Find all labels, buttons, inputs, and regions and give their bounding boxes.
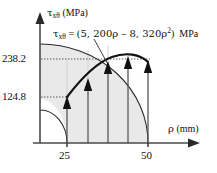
figure-canvas — [0, 0, 217, 173]
equation-unit: MPa — [179, 28, 198, 39]
y-tick-label-238-2: 238.2 — [2, 53, 26, 64]
x-axis-title: ρ (mm) — [168, 124, 199, 134]
equation-annotation: τxθ = (5, 200ρ – 8, 320ρ2) MPa — [53, 27, 198, 41]
y-tick-label-124-8: 124.8 — [2, 91, 26, 102]
equation-equals: = — [68, 28, 74, 39]
y-axis-title-unit: (MPa) — [62, 7, 88, 18]
equation-rhs-tail: ) — [171, 28, 174, 39]
x-axis-arrowhead — [188, 139, 200, 148]
y-axis-arrowhead — [36, 12, 45, 24]
shear-stress-distribution-figure: τxθ (MPa) ρ (mm) τxθ = (5, 200ρ – 8, 320… — [0, 0, 217, 173]
x-axis-title-unit: (mm) — [176, 123, 198, 134]
x-axis-title-symbol: ρ — [168, 123, 174, 134]
x-tick-label-25: 25 — [59, 150, 70, 161]
equation-rhs: (5, 200ρ – 8, 320ρ — [77, 28, 168, 39]
equation-lhs-subscript: xθ — [59, 32, 66, 41]
x-tick-label-50: 50 — [141, 150, 152, 161]
y-axis-title-subscript: xθ — [53, 11, 60, 20]
y-axis-title: τxθ (MPa) — [47, 8, 88, 20]
